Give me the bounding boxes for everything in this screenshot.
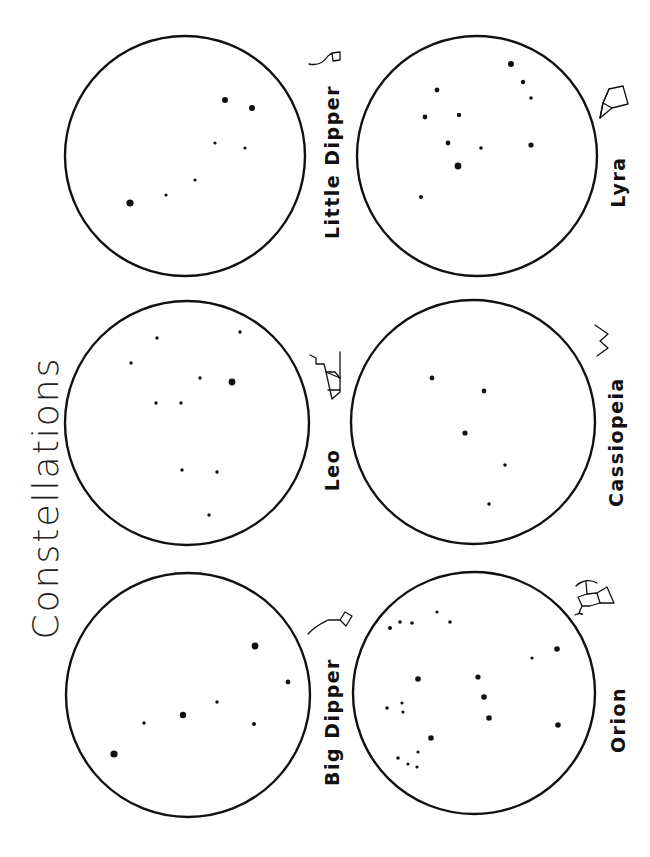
star-dot bbox=[410, 621, 414, 625]
star-dot bbox=[529, 96, 533, 100]
star-dot bbox=[110, 750, 117, 757]
constellations-worksheet: Constellations Little DipperLyraLeoCassi… bbox=[0, 0, 650, 857]
star-dot bbox=[446, 141, 451, 146]
star-dot bbox=[126, 199, 133, 206]
star-dot bbox=[475, 674, 480, 679]
star-dot bbox=[481, 694, 487, 700]
star-dot bbox=[215, 470, 218, 473]
sky-circle bbox=[65, 301, 309, 545]
star-dot bbox=[423, 115, 428, 120]
star-dot bbox=[215, 700, 218, 703]
star-dot bbox=[486, 715, 492, 721]
leo-icon bbox=[310, 352, 340, 399]
star-dot bbox=[398, 620, 402, 624]
star-dot bbox=[482, 389, 487, 394]
star-dot bbox=[428, 735, 434, 741]
star-field-little-dipper bbox=[65, 36, 305, 276]
star-dot bbox=[554, 646, 560, 652]
star-dot bbox=[222, 97, 228, 103]
star-dot bbox=[252, 643, 259, 650]
sky-circle bbox=[66, 573, 310, 817]
star-field-lyra bbox=[357, 36, 597, 276]
constellation-label-leo: Leo bbox=[321, 449, 343, 492]
star-dot bbox=[435, 610, 438, 613]
star-dot bbox=[521, 80, 525, 84]
star-dot bbox=[180, 712, 186, 718]
star-dot bbox=[430, 376, 435, 381]
star-dot bbox=[179, 401, 182, 404]
star-field-big-dipper bbox=[66, 573, 310, 817]
star-dot bbox=[142, 721, 145, 724]
sky-circle bbox=[65, 36, 305, 276]
star-dot bbox=[530, 656, 533, 659]
star-dot bbox=[388, 626, 392, 630]
little-dipper-icon bbox=[309, 52, 340, 65]
star-dot bbox=[479, 146, 483, 150]
star-field-orion bbox=[353, 572, 595, 814]
star-dot bbox=[385, 706, 389, 710]
star-dot bbox=[448, 620, 452, 624]
star-dot bbox=[457, 113, 461, 117]
star-dot bbox=[193, 178, 196, 181]
star-dot bbox=[164, 193, 167, 196]
star-dot bbox=[555, 722, 561, 728]
cassiopeia-icon bbox=[595, 325, 608, 356]
star-dot bbox=[528, 142, 533, 147]
star-dot bbox=[155, 336, 158, 339]
star-dot bbox=[180, 468, 183, 471]
star-dot bbox=[129, 361, 132, 364]
page-title: Constellations bbox=[25, 357, 66, 640]
star-dot bbox=[415, 676, 421, 682]
star-dot bbox=[238, 330, 241, 333]
constellation-labels: Little DipperLyraLeoCassiopeiaBig Dipper… bbox=[321, 85, 629, 786]
sky-circle bbox=[357, 36, 597, 276]
star-dot bbox=[455, 163, 462, 170]
star-dot bbox=[213, 141, 216, 144]
constellation-label-lyra: Lyra bbox=[607, 156, 629, 207]
star-dot bbox=[249, 105, 255, 111]
sky-circle bbox=[351, 300, 595, 544]
constellation-label-cassiopeia: Cassiopeia bbox=[605, 377, 627, 507]
star-dot bbox=[462, 430, 467, 435]
star-dot bbox=[243, 146, 246, 149]
star-field-cassiopeia bbox=[351, 300, 595, 544]
star-field-leo bbox=[65, 301, 309, 545]
big-dipper-icon bbox=[308, 612, 352, 634]
star-dot bbox=[396, 756, 400, 760]
constellation-label-little-dipper: Little Dipper bbox=[321, 85, 343, 239]
star-dot bbox=[419, 195, 423, 199]
star-dot bbox=[401, 710, 404, 713]
constellation-label-orion: Orion bbox=[607, 687, 629, 753]
lyra-icon bbox=[600, 86, 628, 118]
star-dot bbox=[508, 61, 514, 67]
star-dot bbox=[154, 401, 157, 404]
star-dot bbox=[229, 379, 236, 386]
star-dot bbox=[503, 463, 507, 467]
star-dot bbox=[415, 765, 418, 768]
star-dot bbox=[207, 513, 210, 516]
star-dot bbox=[416, 750, 419, 753]
star-dot bbox=[286, 680, 291, 685]
star-dot bbox=[435, 88, 440, 93]
star-dot bbox=[400, 701, 403, 704]
star-dot bbox=[252, 722, 256, 726]
star-dot bbox=[487, 502, 491, 506]
star-dot bbox=[198, 376, 201, 379]
orion-icon bbox=[575, 581, 614, 615]
constellation-label-big-dipper: Big Dipper bbox=[321, 658, 343, 786]
star-dot bbox=[406, 762, 409, 765]
sky-circle bbox=[353, 572, 595, 814]
